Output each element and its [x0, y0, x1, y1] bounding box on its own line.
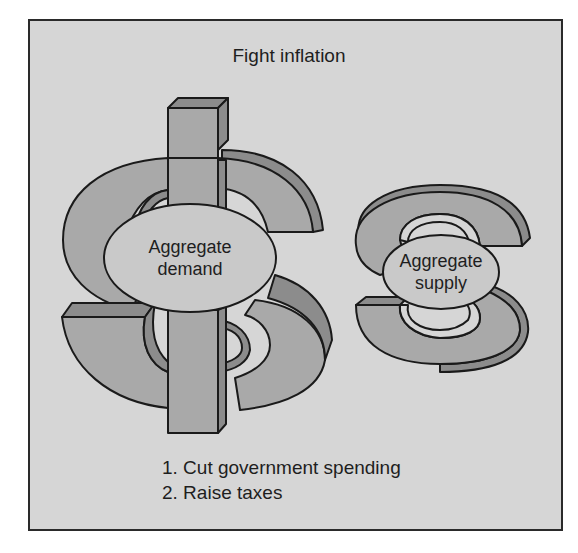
policy-list-item: 2. Raise taxes [162, 480, 401, 505]
aggregate-supply-label-line2: supply [386, 272, 496, 294]
aggregate-supply-label: Aggregate supply [386, 250, 496, 294]
policy-list: 1. Cut government spending 2. Raise taxe… [162, 455, 401, 505]
aggregate-demand-label-line1: Aggregate [110, 236, 270, 258]
aggregate-demand-label: Aggregate demand [110, 236, 270, 280]
aggregate-demand-label-line2: demand [110, 258, 270, 280]
diagram-title: Fight inflation [0, 45, 578, 67]
policy-list-item: 1. Cut government spending [162, 455, 401, 480]
aggregate-supply-label-line1: Aggregate [386, 250, 496, 272]
